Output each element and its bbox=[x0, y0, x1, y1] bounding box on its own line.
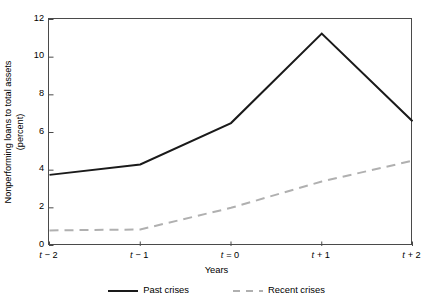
plot-area bbox=[48, 18, 412, 245]
data-series-group bbox=[50, 34, 413, 231]
x-tick-label: t − 2 bbox=[39, 249, 57, 261]
legend-item-recent-crises[interactable]: Recent crises bbox=[233, 284, 325, 296]
x-tick-label: t + 1 bbox=[312, 249, 330, 261]
x-tick-label: t = 0 bbox=[221, 249, 239, 261]
x-axis-label: Years bbox=[0, 264, 433, 276]
y-axis-ticks bbox=[49, 20, 54, 246]
x-tick-label-symbol: t bbox=[402, 249, 405, 260]
y-tick-label: 4 bbox=[26, 165, 44, 174]
chart-figure: Nonperforming loans to total assets (per… bbox=[0, 0, 433, 303]
legend-swatch-icon bbox=[108, 286, 138, 295]
x-tick-label-symbol: t bbox=[39, 249, 42, 260]
series-line-past-crises bbox=[50, 34, 413, 175]
x-tick-label-symbol: t bbox=[312, 249, 315, 260]
chart-legend: Past crisesRecent crises bbox=[0, 282, 433, 298]
y-tick-label: 6 bbox=[26, 127, 44, 136]
legend-item-past-crises[interactable]: Past crises bbox=[108, 284, 189, 296]
y-tick-label: 10 bbox=[26, 52, 44, 61]
x-tick-label-symbol: t bbox=[130, 249, 133, 260]
x-tick-label-symbol: t bbox=[221, 249, 224, 260]
y-tick-label: 8 bbox=[26, 89, 44, 98]
y-tick-label: 0 bbox=[26, 240, 44, 249]
legend-label: Recent crises bbox=[268, 284, 325, 296]
x-tick-label: t + 2 bbox=[402, 249, 420, 261]
series-line-recent-crises bbox=[50, 161, 413, 231]
legend-label: Past crises bbox=[143, 284, 189, 296]
legend-swatch-icon bbox=[233, 286, 263, 295]
x-axis-ticks bbox=[50, 242, 413, 247]
plot-svg bbox=[49, 19, 413, 246]
y-tick-label: 2 bbox=[26, 202, 44, 211]
x-axis-tick-labels: t − 2t − 1t = 0t + 1t + 2 bbox=[48, 249, 412, 263]
x-tick-label: t − 1 bbox=[130, 249, 148, 261]
y-axis-label-line1: Nonperforming loans to total assets bbox=[3, 61, 15, 204]
y-tick-label: 12 bbox=[26, 14, 44, 23]
